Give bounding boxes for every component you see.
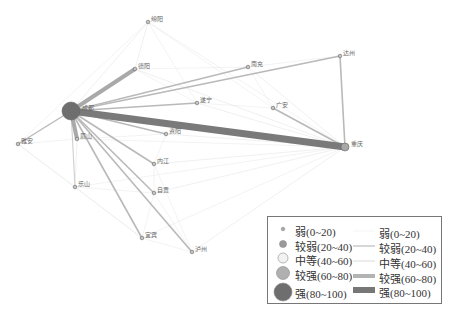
legend-node-symbol-2 — [278, 253, 288, 263]
node-label-meishan: 眉山 — [80, 132, 92, 140]
edge-neijiang-luzhou — [154, 164, 192, 252]
legend-node-symbol-3 — [277, 267, 290, 280]
node-guangan — [271, 106, 275, 110]
node-nanchong — [246, 65, 250, 69]
node-label-ziyang: 资阳 — [169, 127, 181, 135]
legend-node-symbol-0 — [281, 227, 285, 231]
edge-suining-guangan — [197, 103, 273, 108]
node-label-luzhou: 泸州 — [195, 245, 207, 253]
legend-node-label-strong: 强(80~100) — [295, 285, 347, 301]
node-zigong — [152, 191, 156, 195]
node-label-mianyang: 绵阳 — [151, 15, 163, 23]
node-luzhou — [190, 250, 194, 254]
node-neijiang — [152, 162, 156, 166]
node-label-yibin: 宜宾 — [145, 231, 157, 239]
node-label-chongqing: 重庆 — [351, 140, 363, 148]
edge-nanchong-guangan — [248, 67, 273, 108]
edge-leshan-yibin — [75, 187, 142, 238]
node-label-neijiang: 内江 — [157, 157, 169, 165]
legend: 弱(0~20) 较弱(20~40) 中等(40~60) 较强(60~80) 强(… — [267, 216, 442, 304]
node-label-guangan: 广安 — [276, 101, 288, 109]
node-suining — [195, 101, 199, 105]
node-label-chengdu: 成都 — [82, 104, 94, 112]
node-label-yaan: 雅安 — [21, 137, 33, 145]
legend-edge-label-medium: 中等(40~60) — [379, 255, 436, 271]
edge-deyang-nanchong — [135, 67, 248, 69]
legend-node-symbol-1 — [280, 241, 287, 248]
node-yibin — [140, 236, 144, 240]
node-chongqing — [341, 143, 349, 151]
edge-meishan-leshan — [75, 139, 77, 187]
legend-node-label-fairly-strong: 较强(60~80) — [295, 267, 352, 283]
node-deyang — [133, 67, 137, 71]
legend-edge-label-fairly-weak: 较弱(20~40) — [379, 240, 436, 256]
edge-chengdu-chongqing — [71, 111, 345, 147]
node-mianyang — [146, 20, 150, 24]
legend-edge-label-strong: 强(80~100) — [379, 284, 431, 300]
node-label-nanchong: 南充 — [251, 60, 263, 68]
edge-chengdu-yibin — [71, 111, 142, 238]
node-yaan — [16, 142, 20, 146]
node-chengdu — [62, 102, 80, 120]
node-meishan — [75, 137, 79, 141]
node-label-dazhou: 达州 — [343, 49, 355, 57]
node-dazhou — [338, 54, 342, 58]
legend-node-symbol-4 — [274, 283, 292, 301]
node-label-deyang: 德阳 — [138, 62, 150, 70]
legend-node-label-weak: 弱(0~20) — [295, 223, 336, 239]
node-leshan — [73, 185, 77, 189]
edge-chongqing-neijiang — [154, 147, 345, 164]
edge-chongqing-dazhou — [340, 56, 345, 147]
node-label-leshan: 乐山 — [78, 180, 90, 188]
edge-chongqing-leshan — [75, 147, 345, 187]
node-ziyang — [164, 132, 168, 136]
node-label-suining: 遂宁 — [200, 96, 212, 104]
edge-deyang-suining — [135, 69, 197, 103]
legend-node-label-medium: 中等(40~60) — [295, 252, 352, 268]
node-label-zigong: 自贡 — [157, 186, 169, 194]
legend-edge-label-weak: 弱(0~20) — [379, 225, 420, 241]
edge-chongqing-zigong — [154, 147, 345, 193]
